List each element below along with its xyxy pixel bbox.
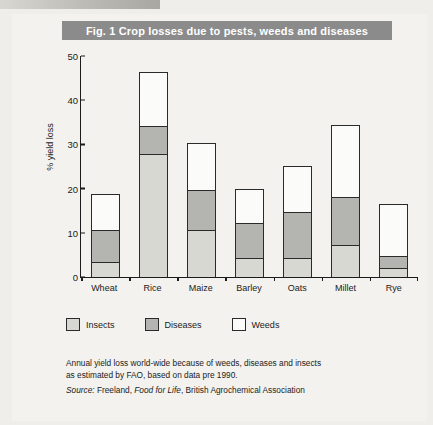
y-axis-tick: 10 <box>67 227 81 238</box>
figure-title: Fig. 1 Crop losses due to pests, weeds a… <box>86 25 368 37</box>
x-axis-tick-mark <box>225 277 227 281</box>
y-axis-tick: 50 <box>67 51 81 62</box>
stacked-bar[interactable] <box>283 166 312 277</box>
source-prefix: Source: <box>66 385 95 395</box>
y-axis-tick-label: 50 <box>67 51 81 62</box>
x-axis-tick-label: Maize <box>177 283 225 293</box>
bar-slot <box>225 56 273 277</box>
x-axis-labels: WheatRiceMaizeBarleyOatsMilletRye <box>80 283 418 293</box>
figure-title-banner: Fig. 1 Crop losses due to pests, weeds a… <box>62 21 392 40</box>
bar-segment-insects <box>332 245 359 277</box>
bar-group <box>81 56 418 277</box>
bar-segment-diseases <box>92 230 119 262</box>
x-axis-tick-label: Barley <box>225 283 273 293</box>
bar-segment-diseases <box>140 126 167 153</box>
x-axis-tick-label: Oats <box>273 283 321 293</box>
bar-segment-diseases <box>380 256 407 268</box>
bar-segment-insects <box>284 258 311 277</box>
y-axis-tick-label: 40 <box>67 95 81 106</box>
x-axis-tick-label: Millet <box>321 283 369 293</box>
stacked-bar[interactable] <box>139 72 168 277</box>
scan-edge-artifact <box>0 0 160 9</box>
legend-label: Diseases <box>165 320 202 330</box>
x-axis-tick-label: Rye <box>370 283 418 293</box>
x-axis-tick-mark <box>370 277 372 281</box>
source-publisher: , British Agrochemical Association <box>181 385 305 395</box>
bar-segment-weeds <box>284 167 311 211</box>
x-axis-tick-mark <box>322 277 324 281</box>
bar-segment-insects <box>188 230 215 277</box>
y-axis-tick: 30 <box>67 139 81 150</box>
bar-segment-weeds <box>140 73 167 126</box>
y-axis-tick-label: 30 <box>67 139 81 150</box>
plot-area: 01020304050 <box>80 56 418 278</box>
figure-source: Source: Freeland, Food for Life, British… <box>66 385 411 397</box>
chart: % yield loss 01020304050 WheatRiceMaizeB… <box>22 50 422 295</box>
caption-line-2: as estimated by FAO, based on data pre 1… <box>66 370 238 380</box>
figure-caption: Annual yield loss world-wide because of … <box>66 358 406 381</box>
bar-slot <box>370 56 418 277</box>
stacked-bar[interactable] <box>187 143 216 277</box>
bar-segment-diseases <box>284 212 311 258</box>
legend-swatch-insects <box>66 318 80 331</box>
bar-segment-diseases <box>332 197 359 244</box>
bar-segment-insects <box>140 154 167 277</box>
source-author: Freeland, <box>97 385 132 395</box>
caption-line-1: Annual yield loss world-wide because of … <box>66 358 321 368</box>
source-work-title: Food for Life <box>134 385 181 395</box>
y-axis-tick-label: 10 <box>67 227 81 238</box>
bar-slot <box>274 56 322 277</box>
x-axis-tick-label: Rice <box>128 283 176 293</box>
bar-slot <box>81 56 129 277</box>
bar-segment-insects <box>236 258 263 277</box>
x-axis-tick-mark <box>129 277 131 281</box>
y-axis-title: % yield loss <box>45 107 55 187</box>
legend-label: Weeds <box>252 320 280 330</box>
bar-segment-weeds <box>380 205 407 257</box>
legend-item: Weeds <box>232 318 280 331</box>
bar-segment-insects <box>92 262 119 277</box>
bar-segment-insects <box>380 268 407 277</box>
bar-slot <box>322 56 370 277</box>
x-axis-tick-mark <box>81 277 83 281</box>
y-axis-tick-label: 20 <box>67 183 81 194</box>
bar-segment-weeds <box>332 126 359 198</box>
bar-segment-diseases <box>188 190 215 230</box>
chart-legend: InsectsDiseasesWeeds <box>66 318 279 331</box>
legend-label: Insects <box>86 320 115 330</box>
x-axis-tick-mark <box>177 277 179 281</box>
bar-slot <box>129 56 177 277</box>
y-axis-tick: 0 <box>73 272 81 283</box>
bar-segment-weeds <box>188 144 215 190</box>
y-axis-tick: 20 <box>67 183 81 194</box>
x-axis-tick-label: Wheat <box>80 283 128 293</box>
stacked-bar[interactable] <box>379 204 408 277</box>
y-axis-tick-label: 0 <box>73 272 81 283</box>
legend-item: Diseases <box>145 318 202 331</box>
stacked-bar[interactable] <box>331 125 360 277</box>
plot-area-wrapper: 01020304050 <box>68 56 418 295</box>
y-axis-tick: 40 <box>67 95 81 106</box>
stacked-bar[interactable] <box>91 194 120 277</box>
legend-swatch-weeds <box>232 318 246 331</box>
bar-segment-weeds <box>92 195 119 229</box>
bar-segment-diseases <box>236 223 263 258</box>
x-axis-tick-mark <box>417 277 419 281</box>
bar-segment-weeds <box>236 190 263 222</box>
x-axis-tick-mark <box>274 277 276 281</box>
legend-item: Insects <box>66 318 115 331</box>
bar-slot <box>177 56 225 277</box>
stacked-bar[interactable] <box>235 189 264 277</box>
legend-swatch-diseases <box>145 318 159 331</box>
